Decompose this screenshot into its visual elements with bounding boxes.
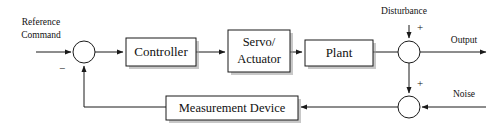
block-measurement-device-label: Measurement Device: [179, 101, 286, 115]
junction-error-sum: [73, 41, 95, 63]
junction-noise-sum: [398, 96, 420, 118]
junction-disturbance-sum: [398, 41, 420, 63]
plus-sign-noise: +: [417, 77, 423, 89]
control-block-diagram: Controller Servo/ Actuator Plant Measure…: [0, 0, 498, 129]
minus-sign-error-sum: −: [59, 62, 65, 74]
block-servo-actuator-label-line2: Actuator: [237, 52, 282, 66]
block-servo-actuator-label-line1: Servo/: [243, 35, 276, 49]
block-plant: Plant: [305, 40, 376, 69]
label-disturbance: Disturbance: [381, 6, 427, 16]
block-plant-label: Plant: [326, 45, 353, 60]
plus-sign-disturbance: +: [417, 21, 423, 33]
block-servo-actuator: Servo/ Actuator: [228, 30, 293, 75]
wire-measurement-to-error-sum: [84, 66, 166, 107]
block-controller: Controller: [126, 38, 199, 69]
diagram-canvas: Controller Servo/ Actuator Plant Measure…: [0, 0, 498, 129]
label-output: Output: [451, 35, 478, 45]
label-reference-command-line1: Reference: [22, 17, 61, 27]
label-noise: Noise: [453, 89, 475, 99]
block-measurement-device: Measurement Device: [166, 96, 301, 123]
label-reference-command-line2: Command: [21, 30, 61, 40]
block-controller-label: Controller: [134, 44, 188, 59]
